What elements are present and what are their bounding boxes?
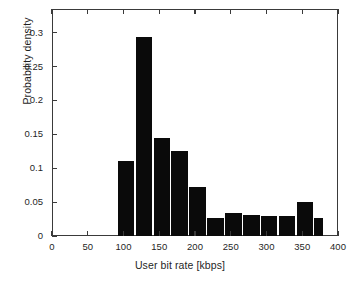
histogram-bar [136,37,153,236]
y-tick-mark [52,202,57,203]
x-tick-label: 300 [247,242,287,252]
histogram-bar [171,151,188,236]
histogram-bar [189,187,206,236]
histogram-bar [225,213,242,236]
y-tick-mark [52,235,57,236]
x-tick-label: 50 [68,242,108,252]
histogram-bar [243,215,260,236]
histogram-bar [261,216,278,236]
x-tick-mark-top [266,9,267,14]
x-tick-mark [230,231,231,236]
x-tick-mark [266,231,267,236]
x-tick-label: 250 [211,242,251,252]
x-tick-mark-top [123,9,124,14]
x-tick-mark [337,231,338,236]
x-tick-label: 0 [32,242,72,252]
y-tick-mark [52,32,57,33]
histogram-bar [154,138,171,236]
y-tick-mark [52,134,57,135]
histogram-figure: 00.050.10.150.20.250.3 05010015020025030… [0,0,360,287]
x-tick-mark-top [194,9,195,14]
histogram-bar [207,218,224,236]
x-tick-mark [194,231,195,236]
x-tick-label: 400 [318,242,358,252]
x-tick-mark-top [87,9,88,14]
x-tick-label: 350 [282,242,322,252]
x-tick-mark-top [230,9,231,14]
x-tick-mark-top [337,9,338,14]
y-tick-mark [52,168,57,169]
histogram-bar [118,161,135,236]
x-tick-label: 100 [104,242,144,252]
y-tick-mark [52,100,57,101]
y-tick-label: 0 [38,231,43,241]
histogram-bar [279,216,296,236]
x-axis-label: User bit rate [kbps] [0,259,360,271]
y-tick-label: 0.05 [25,197,44,207]
histogram-bar [297,202,314,236]
y-tick-mark [52,66,57,67]
plot-area [52,9,338,236]
x-tick-label: 200 [175,242,215,252]
x-tick-mark [159,231,160,236]
x-tick-mark [302,231,303,236]
x-tick-mark-top [159,9,160,14]
x-tick-mark [123,231,124,236]
x-tick-label: 150 [139,242,179,252]
histogram-bar [314,218,323,236]
x-tick-mark-top [51,9,52,14]
y-tick-label: 0.1 [30,163,43,173]
x-tick-mark [87,231,88,236]
y-axis-label: Probability density [21,0,33,141]
x-tick-mark-top [302,9,303,14]
